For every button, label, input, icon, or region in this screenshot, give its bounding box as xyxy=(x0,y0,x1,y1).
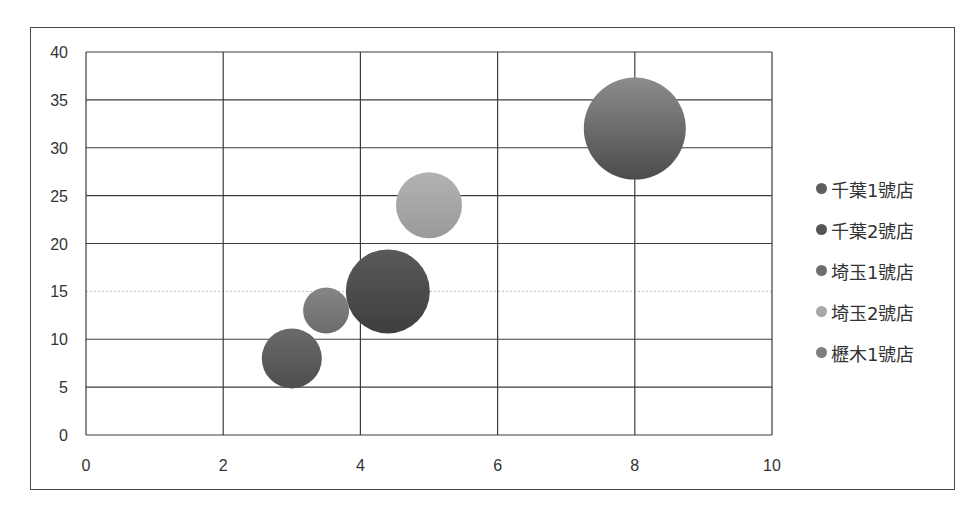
legend-marker-icon xyxy=(816,347,827,358)
bubble xyxy=(584,78,686,180)
y-tick-label: 20 xyxy=(50,236,68,253)
x-tick-label: 0 xyxy=(82,457,91,474)
y-tick-label: 0 xyxy=(59,427,68,444)
bubbles xyxy=(262,78,686,389)
bubble xyxy=(346,249,430,333)
y-tick-label: 30 xyxy=(50,140,68,157)
y-tick-label: 40 xyxy=(50,44,68,61)
legend-item: 埼玉2號店 xyxy=(816,291,914,332)
x-tick-label: 10 xyxy=(763,457,781,474)
y-tick-label: 25 xyxy=(50,188,68,205)
legend-item: 櫪木1號店 xyxy=(816,332,914,373)
legend-marker-icon xyxy=(816,265,827,276)
x-tick-label: 2 xyxy=(219,457,228,474)
legend-marker-icon xyxy=(816,224,827,235)
x-tick-label: 8 xyxy=(630,457,639,474)
legend-item: 埼玉1號店 xyxy=(816,250,914,291)
legend-item: 千葉2號店 xyxy=(816,209,914,250)
y-tick-label: 15 xyxy=(50,283,68,300)
legend-item: 千葉1號店 xyxy=(816,168,914,209)
y-tick-label: 5 xyxy=(59,379,68,396)
bubble xyxy=(396,172,462,238)
legend-marker-icon xyxy=(816,306,827,317)
bubble xyxy=(262,328,322,388)
y-tick-label: 10 xyxy=(50,331,68,348)
x-tick-label: 6 xyxy=(493,457,502,474)
x-tick-label: 4 xyxy=(356,457,365,474)
legend-marker-icon xyxy=(816,183,827,194)
bubble xyxy=(303,288,349,334)
legend: 千葉1號店 千葉2號店 埼玉1號店 埼玉2號店 櫪木1號店 xyxy=(816,168,914,373)
y-tick-label: 35 xyxy=(50,92,68,109)
